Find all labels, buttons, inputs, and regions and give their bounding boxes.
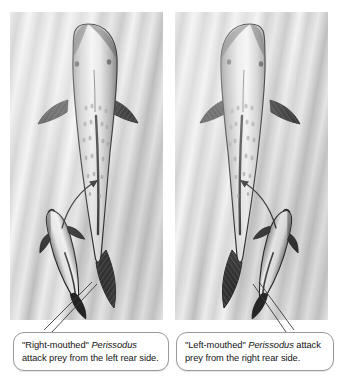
eye-left [75,61,79,67]
right-mouthed-panel [10,12,163,320]
panel-illustration-left [10,12,163,320]
left-pectoral-fin-texture [270,100,300,124]
caption-right-mouthed: "Right-mouthed" Perissodus attack prey f… [13,332,169,371]
left-mouthed-panel [175,12,328,320]
eye-right [107,59,111,65]
large-prey-fish-right [200,24,300,308]
caption-genus-left: Perissodus [91,340,137,350]
prey-fish-body [73,24,117,262]
caption-rest-left: attack prey from the left rear side. [22,353,159,363]
large-prey-fish-left [38,24,138,308]
eye-left [259,61,263,67]
caption-genus-right: Perissodus [248,340,294,350]
caption-quoted-term-left: "Right-mouthed" [22,340,89,350]
panel-illustration-right [175,12,328,320]
caption-left-mouthed: "Left-mouthed" Perissodus attack prey fr… [176,332,334,371]
prey-fish-body [221,24,265,262]
left-pectoral-fin-texture [38,100,68,124]
caption-quoted-term-right: "Left-mouthed" [185,340,246,350]
eye-right [227,59,231,65]
scale-eating-fish-figure: "Right-mouthed" Perissodus attack prey f… [0,0,338,381]
